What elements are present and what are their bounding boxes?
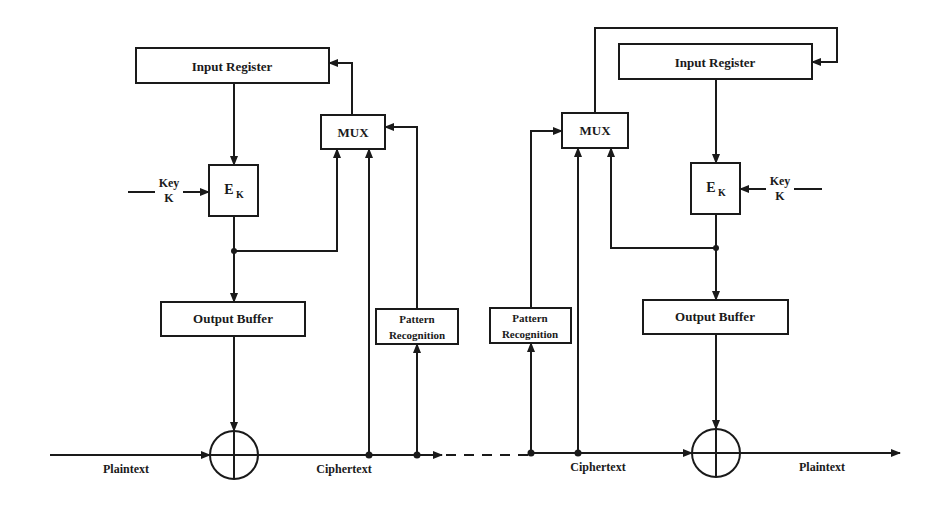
key-input-right: Key K: [740, 174, 822, 203]
key-input-left: Key K: [128, 176, 209, 205]
input-register-label: Input Register: [192, 59, 273, 74]
output-buffer-label: Output Buffer: [193, 311, 273, 326]
pattern-label-line2: Recognition: [502, 328, 558, 340]
pattern-label-line1: Pattern: [399, 313, 434, 325]
encryptor: Input Register MUX E K Key K Output Buff…: [50, 48, 458, 479]
plaintext-out-label: Plaintext: [799, 460, 845, 474]
key-label: Key: [770, 174, 791, 188]
ciphertext-out-label: Ciphertext: [316, 462, 371, 476]
key-symbol: K: [775, 189, 785, 203]
key-symbol: K: [164, 191, 174, 205]
decryptor: Input Register MUX E K Key K Output Buff…: [490, 28, 900, 477]
output-buffer-label: Output Buffer: [675, 309, 755, 324]
pattern-label-line2: Recognition: [389, 329, 445, 341]
encrypt-block-right: E K: [691, 163, 740, 214]
pattern-label-line1: Pattern: [512, 312, 547, 324]
encrypt-subscript: K: [718, 187, 726, 198]
pattern-recognition-left: Pattern Recognition: [376, 309, 458, 344]
encrypt-block-left: E K: [209, 165, 258, 216]
encrypt-subscript: K: [236, 189, 244, 200]
output-buffer-right: Output Buffer: [643, 300, 788, 334]
pattern-recognition-right: Pattern Recognition: [490, 308, 571, 343]
encrypt-label: E: [706, 180, 715, 195]
encrypt-label: E: [224, 182, 233, 197]
cipher-feedback-diagram: Input Register MUX E K Key K Output Buff…: [0, 0, 943, 507]
mux-right: MUX: [562, 113, 628, 148]
mux-label: MUX: [579, 123, 611, 138]
input-register-left: Input Register: [136, 48, 329, 83]
mux-label: MUX: [337, 125, 369, 140]
xor-left: [210, 431, 258, 479]
plaintext-in-label: Plaintext: [103, 462, 149, 476]
output-buffer-left: Output Buffer: [161, 302, 305, 336]
ciphertext-in-label: Ciphertext: [570, 460, 625, 474]
key-label: Key: [159, 176, 180, 190]
input-register-right: Input Register: [619, 44, 812, 79]
input-register-label: Input Register: [675, 55, 756, 70]
mux-left: MUX: [321, 115, 385, 149]
xor-right: [692, 429, 740, 477]
